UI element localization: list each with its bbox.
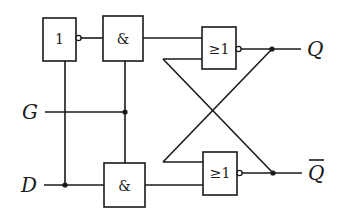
output-label-q: Q [307, 37, 323, 61]
and-gate-top-symbol: & [117, 31, 129, 47]
not-gate: 1 [43, 18, 81, 61]
and-gate-bottom-symbol: & [118, 178, 130, 194]
nor-gate-bottom: ≥1 [203, 152, 242, 195]
wires [44, 38, 302, 185]
input-label-d: D [20, 173, 37, 197]
junction-dot-d [62, 182, 67, 187]
inversion-bubble-icon [76, 35, 81, 40]
inversion-bubble-icon [236, 46, 241, 51]
not-gate-symbol: 1 [55, 31, 64, 47]
input-label-g: G [22, 100, 38, 124]
output-label-q-bar: Q [308, 161, 324, 185]
and-gate-top: & [103, 16, 143, 61]
inversion-bubble-icon [237, 170, 242, 175]
junction-dot-g [122, 109, 127, 114]
and-gate-bottom: & [104, 163, 145, 207]
nor-gate-bottom-symbol: ≥1 [210, 165, 231, 181]
latch-circuit-diagram: 1 & & ≥1 ≥1 G D Q Q [0, 0, 343, 217]
nor-gate-top-symbol: ≥1 [209, 41, 230, 57]
junction-dot-q [269, 46, 274, 51]
junction-dot-qbar [270, 170, 275, 175]
nor-gate-top: ≥1 [202, 27, 241, 69]
